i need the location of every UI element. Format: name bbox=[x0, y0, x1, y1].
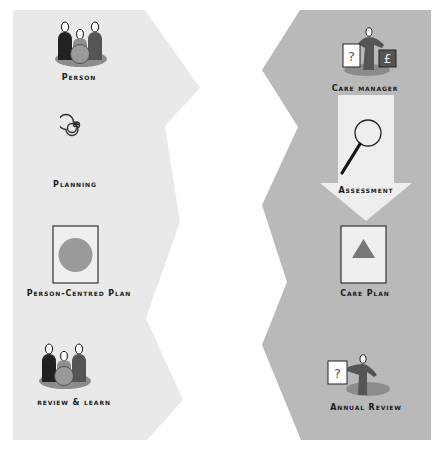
question-mark: ? bbox=[334, 366, 341, 381]
step-label-person: Person bbox=[62, 73, 96, 82]
magnifying-glass-icon bbox=[338, 118, 384, 178]
step-label-care-manager: Care manager bbox=[332, 84, 399, 93]
step-label-assessment: Assessment bbox=[338, 186, 393, 195]
group-of-people-icon bbox=[32, 340, 96, 390]
group-of-people-icon bbox=[48, 18, 112, 68]
pound-sign: £ bbox=[384, 52, 392, 66]
step-label-review-learn: review & learn bbox=[37, 398, 111, 407]
spiral-icon bbox=[60, 110, 90, 140]
step-label-person-centred-plan: Person-Centred Plan bbox=[27, 289, 131, 298]
presenter-question-pound-icon: ? £ bbox=[333, 26, 399, 78]
diagram-canvas: Person Planning Person-Centred Plan revi… bbox=[0, 0, 442, 453]
document-triangle-icon bbox=[340, 225, 388, 285]
step-label-annual-review: Annual Review bbox=[330, 403, 402, 412]
step-label-care-plan: Care Plan bbox=[340, 289, 389, 298]
presenter-question-icon: ? bbox=[326, 353, 392, 399]
step-label-planning: Planning bbox=[53, 180, 97, 189]
question-mark: ? bbox=[348, 49, 355, 64]
document-circle-icon bbox=[52, 225, 100, 285]
